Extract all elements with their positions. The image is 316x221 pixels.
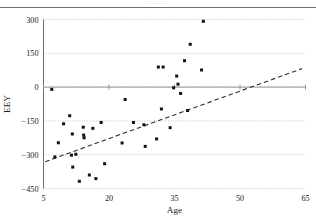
data-point	[83, 136, 86, 139]
data-point	[142, 123, 145, 126]
gridlines-group	[44, 20, 306, 189]
data-point	[176, 83, 179, 86]
x-tick-label: 20	[105, 194, 113, 203]
data-point	[88, 173, 91, 176]
y-tick-label: 150	[26, 49, 38, 58]
data-point	[202, 20, 205, 23]
figure-container: · · · · · · 520355065 3001500−150−300−45…	[0, 0, 316, 221]
data-point	[91, 127, 94, 130]
x-tick-label: 35	[170, 194, 178, 203]
data-point	[100, 121, 103, 124]
y-tick-label: −300	[22, 151, 39, 160]
data-point	[68, 114, 71, 117]
data-point	[157, 66, 160, 69]
data-point	[62, 122, 65, 125]
data-point	[94, 177, 97, 180]
data-point	[53, 155, 56, 158]
x-axis-title: Age	[167, 205, 182, 215]
data-point	[103, 162, 106, 165]
y-axis-title: EEY	[2, 95, 12, 113]
data-point	[175, 75, 178, 78]
data-point	[78, 180, 81, 183]
scatter-plot: 520355065 3001500−150−300−450 AgeEEY	[0, 0, 316, 221]
data-point	[186, 109, 189, 112]
data-point	[50, 88, 53, 91]
y-tick-label: 300	[26, 16, 38, 25]
data-point	[71, 132, 74, 135]
data-point	[183, 59, 186, 62]
data-point	[144, 145, 147, 148]
x-tick-label: 5	[41, 194, 45, 203]
data-point	[74, 153, 77, 156]
data-point	[169, 126, 172, 129]
data-point	[172, 86, 175, 89]
data-point	[160, 107, 163, 110]
data-point	[124, 98, 127, 101]
data-point	[82, 126, 85, 129]
x-tick-label: 50	[236, 194, 244, 203]
regression-line-group	[45, 69, 302, 162]
data-point	[57, 141, 60, 144]
regression-line	[45, 69, 302, 162]
y-tick-labels-group: 3001500−150−300−450	[22, 16, 39, 194]
x-tick-labels-group: 520355065	[41, 194, 309, 203]
data-point	[189, 43, 192, 46]
data-point	[200, 68, 203, 71]
data-point	[132, 121, 135, 124]
y-tick-label: 0	[34, 83, 38, 92]
x-tick-label: 65	[301, 194, 309, 203]
data-point	[162, 66, 165, 69]
data-point	[82, 134, 85, 137]
data-point	[179, 92, 182, 95]
data-point	[121, 141, 124, 144]
y-tick-label: −150	[22, 117, 39, 126]
data-point	[70, 154, 73, 157]
data-points-group	[50, 20, 205, 183]
data-point	[155, 137, 158, 140]
data-point	[71, 166, 74, 169]
y-tick-label: −450	[22, 185, 39, 194]
